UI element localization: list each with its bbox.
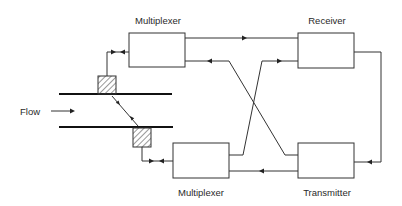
link-mux-top-to-receiver	[185, 36, 298, 41]
mux-bottom-label: Multiplexer	[178, 187, 224, 198]
link-receiver-to-transmitter	[354, 52, 381, 165]
mux-top-label: Multiplexer	[135, 15, 181, 26]
flow-label: Flow	[20, 106, 40, 117]
link-upstream-transducer-mux	[107, 50, 129, 77]
mux-top-block	[129, 33, 185, 67]
link-transmitter-to-mux-top	[185, 59, 298, 156]
mux-bottom-block	[173, 143, 229, 178]
transducer-upstream	[98, 76, 116, 94]
receiver-block	[298, 33, 354, 68]
link-downstream-transducer-mux	[142, 147, 173, 164]
acoustic-path	[112, 96, 138, 126]
link-transmitter-to-mux-bottom	[229, 169, 298, 174]
flowmeter-diagram: Multiplexer Receiver Multiplexer Transmi…	[0, 0, 402, 206]
transmitter-label: Transmitter	[303, 187, 351, 198]
receiver-label: Receiver	[308, 15, 346, 26]
transmitter-block	[298, 143, 354, 178]
link-mux-bottom-to-receiver	[229, 59, 298, 156]
transducer-downstream	[133, 128, 151, 147]
flow-arrow	[51, 109, 75, 114]
